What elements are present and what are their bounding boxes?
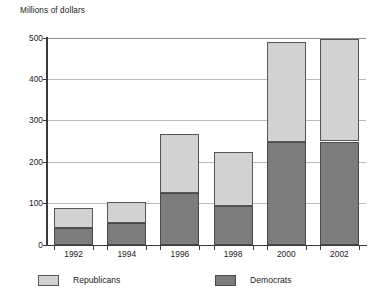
- bar-segment-republicans-1994[interactable]: [107, 202, 146, 223]
- x-tick-label-2002: 2002: [313, 249, 366, 259]
- y-tick-label-0: 0: [1, 241, 43, 250]
- bar-group-1996[interactable]: [160, 38, 199, 245]
- x-tick-label-2000: 2000: [260, 249, 313, 259]
- y-tick-label-100: 100: [1, 199, 43, 208]
- x-tick-mark-2002-left: [320, 246, 321, 250]
- bar-segment-democrats-1992[interactable]: [54, 228, 93, 245]
- x-tick-mark-1992-right: [93, 246, 94, 250]
- x-tick-mark-1994-right: [146, 246, 147, 250]
- x-tick-label-1998: 1998: [207, 249, 260, 259]
- y-tick-label-300: 300: [1, 116, 43, 125]
- y-tick-label-200: 200: [1, 158, 43, 167]
- stacked-bar-chart: Millions of dollars 0100200300400500 199…: [0, 0, 379, 302]
- x-tick-label-1992: 1992: [47, 249, 100, 259]
- x-tick-mark-2002-right: [359, 246, 360, 250]
- chart-legend: Republicans Democrats: [0, 271, 379, 295]
- x-tick-mark-2000-right: [306, 246, 307, 250]
- bar-segment-republicans-2002[interactable]: [320, 39, 359, 142]
- bar-segment-republicans-1996[interactable]: [160, 134, 199, 193]
- x-tick-mark-1998-left: [214, 246, 215, 250]
- bar-segment-democrats-1998[interactable]: [214, 206, 253, 245]
- x-tick-mark-1996-left: [160, 246, 161, 250]
- legend-entry-democrats: Democrats: [215, 271, 292, 289]
- bar-segment-republicans-1992[interactable]: [54, 208, 93, 229]
- bars-group: [47, 38, 366, 245]
- bar-group-2002[interactable]: [320, 38, 359, 245]
- bar-segment-democrats-2000[interactable]: [267, 142, 306, 245]
- y-axis-tick-labels: 0100200300400500: [0, 0, 43, 302]
- x-tick-mark-1992-left: [54, 246, 55, 250]
- bar-group-1998[interactable]: [214, 38, 253, 245]
- bar-group-1992[interactable]: [54, 38, 93, 245]
- x-tick-mark-2000-left: [267, 246, 268, 250]
- bar-segment-republicans-2000[interactable]: [267, 42, 306, 142]
- y-tick-label-500: 500: [1, 34, 43, 43]
- bar-segment-democrats-1994[interactable]: [107, 223, 146, 245]
- bar-group-2000[interactable]: [267, 38, 306, 245]
- legend-label-republicans: Republicans: [73, 275, 120, 286]
- bar-segment-democrats-1996[interactable]: [160, 193, 199, 245]
- legend-entry-republicans: Republicans: [38, 271, 120, 289]
- legend-swatch-democrats-icon: [215, 275, 236, 286]
- y-tick-label-400: 400: [1, 75, 43, 84]
- bar-segment-democrats-2002[interactable]: [320, 142, 359, 246]
- x-tick-mark-1996-right: [199, 246, 200, 250]
- x-tick-label-1996: 1996: [153, 249, 206, 259]
- x-tick-mark-1994-left: [107, 246, 108, 250]
- bar-segment-republicans-1998[interactable]: [214, 152, 253, 205]
- legend-swatch-republicans-icon: [38, 275, 59, 286]
- legend-label-democrats: Democrats: [250, 275, 292, 286]
- x-tick-label-1994: 1994: [100, 249, 153, 259]
- bar-group-1994[interactable]: [107, 38, 146, 245]
- x-tick-mark-1998-right: [253, 246, 254, 250]
